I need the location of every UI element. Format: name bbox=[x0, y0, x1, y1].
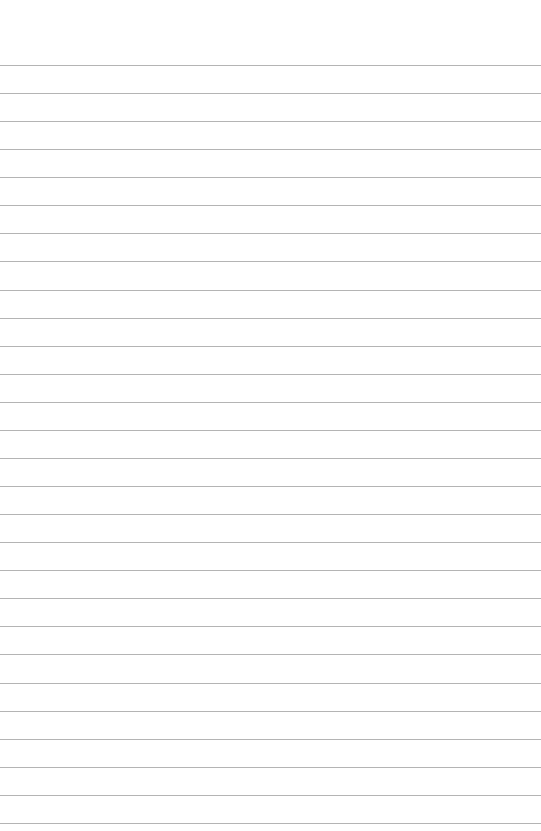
ruled-line bbox=[0, 739, 541, 740]
ruled-line bbox=[0, 795, 541, 796]
ruled-line bbox=[0, 486, 541, 487]
ruled-line bbox=[0, 683, 541, 684]
lined-paper-page bbox=[0, 0, 541, 831]
ruled-line bbox=[0, 458, 541, 459]
ruled-line bbox=[0, 205, 541, 206]
ruled-line bbox=[0, 290, 541, 291]
ruled-line bbox=[0, 542, 541, 543]
ruled-line bbox=[0, 261, 541, 262]
ruled-line bbox=[0, 149, 541, 150]
ruled-line bbox=[0, 121, 541, 122]
ruled-line bbox=[0, 65, 541, 66]
ruled-line bbox=[0, 430, 541, 431]
ruled-line bbox=[0, 346, 541, 347]
ruled-line bbox=[0, 514, 541, 515]
ruled-line bbox=[0, 711, 541, 712]
ruled-line bbox=[0, 402, 541, 403]
ruled-line bbox=[0, 598, 541, 599]
ruled-line bbox=[0, 374, 541, 375]
ruled-line bbox=[0, 570, 541, 571]
ruled-line bbox=[0, 767, 541, 768]
ruled-line bbox=[0, 233, 541, 234]
ruled-line bbox=[0, 823, 541, 824]
ruled-line bbox=[0, 93, 541, 94]
ruled-line bbox=[0, 177, 541, 178]
ruled-line bbox=[0, 626, 541, 627]
ruled-line bbox=[0, 318, 541, 319]
ruled-line bbox=[0, 654, 541, 655]
